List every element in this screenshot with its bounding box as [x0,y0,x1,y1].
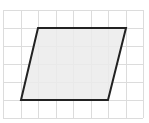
grid-diagram [0,0,149,123]
parallelogram [21,28,126,100]
